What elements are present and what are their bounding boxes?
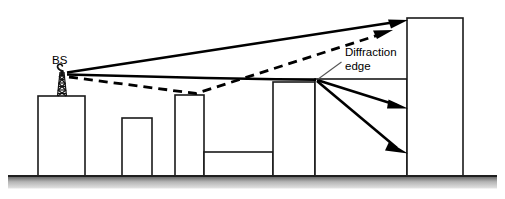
ray-rooftop-grazing-to-diffraction-edge <box>67 75 316 80</box>
building-5-tall-edge <box>273 82 315 176</box>
ground-strip <box>8 175 497 189</box>
bs-antenna-tower <box>57 64 66 96</box>
bs-label: BS <box>52 54 68 66</box>
building-2-short <box>122 118 152 176</box>
diagram-canvas: BS Diffraction edge <box>0 0 505 199</box>
propagation-diagram-figure: BS Diffraction edge <box>0 0 505 199</box>
diffraction-edge-leader-line <box>318 62 342 80</box>
ray-reflected-arrowhead <box>373 30 393 39</box>
ray-direct-arrowhead <box>388 20 408 29</box>
building-1-bs-host <box>38 96 85 176</box>
diffraction-edge-label-line2: edge <box>345 60 371 72</box>
building-3-mid <box>175 95 204 176</box>
building-7-receiver-tower <box>407 18 463 176</box>
diffraction-edge-label-line1: Diffraction <box>345 46 397 58</box>
building-4-low-wide <box>204 152 273 176</box>
